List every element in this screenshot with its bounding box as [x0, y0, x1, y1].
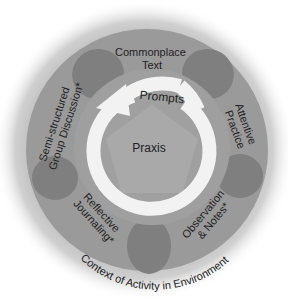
praxis-label: Praxis: [132, 141, 165, 155]
praxis-diagram: Prompts Praxis Commonplace Text Attentiv…: [0, 0, 288, 301]
petal-bottom: [127, 218, 171, 274]
